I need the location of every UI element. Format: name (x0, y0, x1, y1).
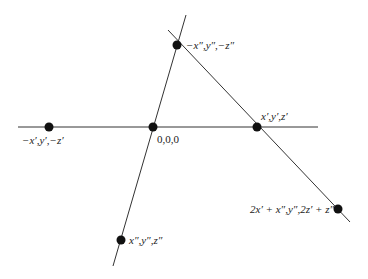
point-origin (149, 123, 158, 132)
label-bottom: x″,y″,z″ (128, 234, 163, 246)
diagram-canvas: −x″,y″,−z″ −x′,y′,−z′ 0,0,0 x′,y′,z′ 2x′… (0, 0, 368, 279)
label-right: x′,y′,z′ (260, 110, 288, 122)
point-bottom (117, 236, 126, 245)
label-origin: 0,0,0 (157, 133, 180, 145)
point-right (253, 123, 262, 132)
label-lower-right: 2x′ + x″,y″,2z′ + z″ (250, 203, 335, 215)
point-top (173, 41, 182, 50)
label-top: −x″,y″,−z″ (186, 39, 235, 51)
point-lower-right (334, 205, 343, 214)
point-left (45, 123, 54, 132)
label-left: −x′,y′,−z′ (22, 134, 64, 146)
